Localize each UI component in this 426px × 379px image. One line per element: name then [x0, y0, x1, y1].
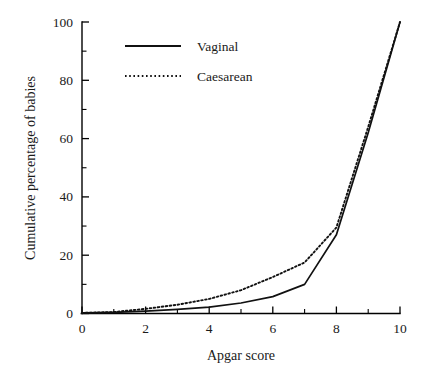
- y-tick-label: 80: [60, 73, 74, 88]
- x-tick-label: 0: [79, 321, 86, 336]
- y-tick-label: 60: [60, 131, 74, 146]
- y-tick-label: 20: [60, 248, 74, 263]
- cumulative-percentage-line-chart: 020406080100 Cumulative percentage of ba…: [0, 0, 426, 379]
- chart-container: 020406080100 Cumulative percentage of ba…: [0, 0, 426, 379]
- x-tick-label: 10: [393, 321, 407, 336]
- x-axis-title: Apgar score: [207, 348, 275, 363]
- legend-label-vaginal: Vaginal: [197, 39, 238, 54]
- x-tick-label: 4: [206, 321, 213, 336]
- x-tick-label: 2: [142, 321, 149, 336]
- x-tick-label: 8: [333, 321, 340, 336]
- legend-label-caesarean: Caesarean: [197, 69, 253, 84]
- y-tick-label: 100: [53, 15, 74, 30]
- x-tick-label: 6: [269, 321, 276, 336]
- y-tick-label: 0: [66, 306, 73, 321]
- y-tick-label: 40: [60, 189, 74, 204]
- y-axis-title: Cumulative percentage of babies: [23, 76, 38, 260]
